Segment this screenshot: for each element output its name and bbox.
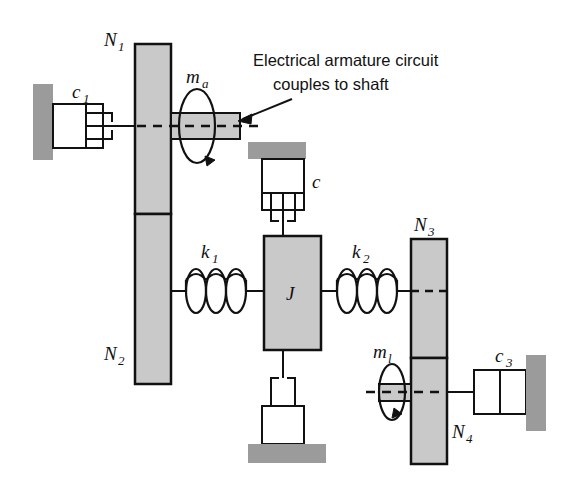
spring-k1-label-sub: 1	[212, 251, 219, 266]
spring-k1	[171, 269, 264, 313]
gear-n1-label-text: N	[103, 29, 118, 50]
annotation-line1: Electrical armature circuit	[253, 51, 439, 69]
damper-c-label: c	[312, 171, 321, 192]
gear-n2-label-sub: 2	[118, 353, 125, 368]
damper-c1-label-text: c	[72, 81, 81, 102]
damper-c-label-text: c	[312, 171, 321, 192]
gear-n3-label-sub: 3	[427, 224, 435, 239]
damper-c3-label: c 3	[495, 345, 513, 370]
gear-n1-label: N 1	[103, 29, 125, 54]
damper-bottom	[262, 350, 304, 444]
gear-n4-label-text: N	[451, 421, 466, 442]
load-ml-label-sub: l	[388, 351, 392, 366]
diagram-canvas: c 1 N 1 N 2 m a	[0, 0, 574, 484]
wall-right	[526, 355, 546, 431]
spring-k2-label: k 2	[352, 241, 370, 266]
wall-left	[33, 84, 53, 160]
gear-n2-label: N 2	[103, 343, 125, 368]
gear-n3-label: N 3	[413, 214, 435, 239]
gear-n2-label-text: N	[103, 343, 118, 364]
damper-c	[262, 159, 304, 236]
damper-c1	[53, 104, 137, 148]
armature-ma-label-text: m	[186, 66, 200, 87]
spring-k2	[321, 269, 411, 313]
damper-c3-label-text: c	[495, 345, 504, 366]
gear-n3-label-text: N	[413, 214, 428, 235]
damper-c1-label-sub: 1	[83, 91, 90, 106]
load-ml-label: m l	[373, 341, 392, 366]
ceiling-support	[248, 142, 306, 159]
gear-n4-label: N 4	[451, 421, 473, 446]
damper-c3	[447, 370, 526, 414]
gear-n4-label-sub: 4	[466, 431, 473, 446]
gear-column-n1n2	[135, 44, 171, 384]
spring-k1-label: k 1	[201, 241, 219, 266]
armature-ma-label: m a	[186, 66, 209, 91]
load-ml-label-text: m	[373, 341, 387, 362]
gear-column-n3n4	[411, 239, 447, 464]
armature-ma-label-sub: a	[202, 76, 209, 91]
damper-c3-label-sub: 3	[505, 355, 513, 370]
spring-k1-label-text: k	[201, 241, 210, 262]
gear-n1-label-sub: 1	[118, 39, 125, 54]
spring-k2-label-sub: 2	[363, 251, 370, 266]
spring-k2-label-text: k	[352, 241, 361, 262]
floor-support	[248, 444, 326, 463]
armature-ma	[171, 89, 240, 166]
annotation-armature: Electrical armature circuit couples to s…	[238, 51, 439, 124]
damper-c1-label: c 1	[72, 81, 90, 106]
system-diagram: c 1 N 1 N 2 m a	[0, 0, 574, 484]
annotation-line2: couples to shaft	[273, 75, 389, 93]
